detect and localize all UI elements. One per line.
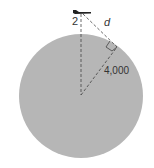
distance-label: d: [104, 17, 110, 28]
airplane-icon: [73, 10, 91, 14]
planet-circle: [19, 34, 143, 158]
radius-label: 4,000: [104, 66, 129, 76]
altitude-label: 2: [72, 16, 78, 27]
